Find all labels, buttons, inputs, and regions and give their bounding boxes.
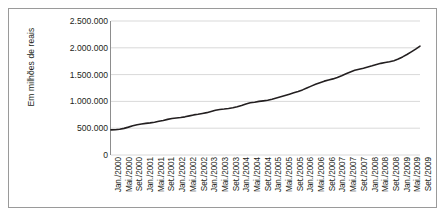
x-tick-label: Jan./2003 — [210, 157, 219, 209]
x-tick-label: Mai./2009 — [413, 157, 422, 209]
x-tick-label: Mai./2006 — [317, 157, 326, 209]
x-tick-label: Jan./2007 — [338, 157, 347, 209]
x-tick-label: Mai./2004 — [253, 157, 262, 209]
x-tick-label: Set./2005 — [296, 157, 305, 209]
x-tick-label: Mai./2001 — [157, 157, 166, 209]
x-tick-label: Jan./2006 — [306, 157, 315, 209]
y-tick-label: 1.000.000 — [46, 96, 108, 106]
x-tick-label: Mai./2003 — [221, 157, 230, 209]
x-tick-label: Jan./2005 — [274, 157, 283, 209]
line-chart-svg — [111, 21, 420, 155]
x-tick-label: Jan./2008 — [371, 157, 380, 209]
x-tick-label: Set./2006 — [328, 157, 337, 209]
x-tick-label: Mai./2005 — [285, 157, 294, 209]
y-tick-label: 500.000 — [46, 123, 108, 133]
x-tick-label: Mai./2008 — [381, 157, 390, 209]
y-tick-label: 1.500.000 — [46, 70, 108, 80]
x-tick-label: Set./2004 — [264, 157, 273, 209]
y-axis-title: Em milhões de reais — [26, 12, 36, 122]
x-tick-label: Jan./2009 — [403, 157, 412, 209]
x-tick-label: Set./2007 — [360, 157, 369, 209]
x-tick-label: Set./2000 — [135, 157, 144, 209]
x-tick-label: Jan./2001 — [146, 157, 155, 209]
x-tick-label: Mai./2000 — [125, 157, 134, 209]
plot-area — [110, 21, 420, 155]
x-tick-label: Set./2001 — [167, 157, 176, 209]
y-tick-label: 2.000.000 — [46, 43, 108, 53]
y-axis-tick-labels: 0500.0001.000.0001.500.0002.000.0002.500… — [46, 15, 108, 163]
y-tick-label: 2.500.000 — [46, 16, 108, 26]
x-tick-label: Mai./2002 — [189, 157, 198, 209]
x-axis-tick-labels: Jan./2000Mai./2000Set./2000Jan./2001Mai.… — [110, 157, 420, 205]
y-tick-label: 0 — [46, 150, 108, 160]
x-tick-label: Set./2009 — [424, 157, 433, 209]
x-tick-label: Mai./2007 — [349, 157, 358, 209]
x-tick-label: Set./2008 — [392, 157, 401, 209]
x-tick-label: Jan./2002 — [178, 157, 187, 209]
x-tick-label: Set./2003 — [232, 157, 241, 209]
x-tick-label: Jan./2004 — [242, 157, 251, 209]
gridlines — [111, 21, 420, 155]
data-series-line — [111, 46, 420, 130]
chart-figure: Em milhões de reais 0500.0001.000.0001.5… — [0, 0, 448, 223]
x-tick-label: Jan./2000 — [114, 157, 123, 209]
x-tick-label: Set./2002 — [200, 157, 209, 209]
